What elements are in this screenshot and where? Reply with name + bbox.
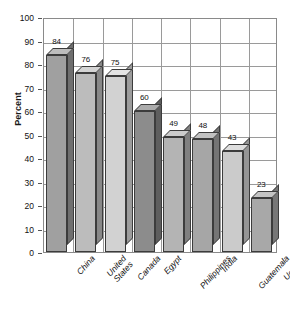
bars-container: 8476756049484323 bbox=[44, 19, 276, 252]
bar-canada: 75 bbox=[105, 69, 126, 252]
bar-side-face bbox=[155, 97, 162, 245]
y-axis-tick-mark bbox=[38, 112, 42, 113]
bar-front-face bbox=[222, 151, 243, 252]
y-axis-tick-label: 20 bbox=[8, 201, 34, 211]
bar-united-states: 76 bbox=[75, 66, 96, 252]
x-axis-label-egypt: Egypt bbox=[163, 254, 184, 276]
y-axis-tick-mark bbox=[38, 253, 42, 254]
y-axis-tick-label: 70 bbox=[8, 84, 34, 94]
y-axis-tick-label: 0 bbox=[8, 248, 34, 258]
bar-side-face bbox=[184, 123, 191, 245]
bar-china: 84 bbox=[46, 48, 67, 252]
y-axis-tick-label: 80 bbox=[8, 60, 34, 70]
y-axis-tick-mark bbox=[38, 159, 42, 160]
bar-india: 48 bbox=[192, 132, 213, 252]
bar-side-face bbox=[213, 125, 220, 245]
y-axis-tick-label: 40 bbox=[8, 154, 34, 164]
y-axis-tick-label: 50 bbox=[8, 131, 34, 141]
y-axis-tick-mark bbox=[38, 65, 42, 66]
y-axis-tick-mark bbox=[38, 18, 42, 19]
y-axis-tick-mark bbox=[38, 89, 42, 90]
bar-side-face bbox=[243, 137, 250, 245]
bar-value-label: 23 bbox=[257, 180, 266, 189]
y-axis-tick-label: 30 bbox=[8, 178, 34, 188]
x-axis-label-united-states: United States bbox=[105, 254, 135, 284]
bar-philippines: 49 bbox=[163, 130, 184, 252]
bar-front-face bbox=[251, 198, 272, 252]
bar-egypt: 60 bbox=[134, 104, 155, 252]
plot-area: 8476756049484323 bbox=[43, 18, 277, 253]
bar-uganda: 23 bbox=[251, 191, 272, 252]
bar-front-face bbox=[134, 111, 155, 252]
y-axis-tick-labels: 1009080706050403020100 bbox=[8, 18, 34, 253]
bar-value-label: 84 bbox=[52, 37, 61, 46]
y-axis-tick-label: 60 bbox=[8, 107, 34, 117]
bar-guatemala: 43 bbox=[222, 144, 243, 252]
bar-value-label: 43 bbox=[228, 133, 237, 142]
bar-front-face bbox=[105, 76, 126, 252]
y-axis-tick-mark bbox=[38, 136, 42, 137]
bar-chart: Percent 1009080706050403020100 847675604… bbox=[0, 0, 290, 325]
y-axis-tick-label: 90 bbox=[8, 37, 34, 47]
y-axis-tick-label: 10 bbox=[8, 225, 34, 235]
y-axis-tick-mark bbox=[38, 183, 42, 184]
bar-front-face bbox=[75, 73, 96, 252]
bar-front-face bbox=[192, 139, 213, 252]
x-axis-label-china: China bbox=[75, 254, 97, 277]
bar-value-label: 76 bbox=[81, 55, 90, 64]
x-axis-label-canada: Canada bbox=[136, 254, 163, 282]
bar-side-face bbox=[67, 41, 74, 245]
bar-value-label: 60 bbox=[140, 93, 149, 102]
bar-front-face bbox=[46, 55, 67, 252]
y-axis-tick-mark bbox=[38, 42, 42, 43]
y-axis-tick-label: 100 bbox=[8, 13, 34, 23]
x-axis-category-labels: ChinaUnited StatesCanadaEgyptPhilippines… bbox=[43, 254, 277, 325]
y-axis-tick-mark bbox=[38, 206, 42, 207]
bar-value-label: 75 bbox=[111, 58, 120, 67]
bar-side-face bbox=[126, 62, 133, 245]
y-axis-tick-mark bbox=[38, 230, 42, 231]
bar-value-label: 48 bbox=[198, 121, 207, 130]
bar-side-face bbox=[96, 59, 103, 245]
bar-value-label: 49 bbox=[169, 119, 178, 128]
bar-front-face bbox=[163, 137, 184, 252]
